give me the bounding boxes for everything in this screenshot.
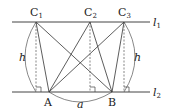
label-c2: C2 [84,6,97,20]
height-arc-left [25,22,36,92]
label-a-point: A [43,96,53,109]
segment-c2-a [49,22,90,92]
label-base-a: a [77,98,84,111]
label-b-point: B [108,96,116,109]
label-c1: C1 [30,6,43,20]
label-l1: l1 [153,16,161,30]
label-h-left: h [19,51,26,64]
geometry-diagram: C1 C2 C3 l1 l2 h h A B a [0,0,173,112]
altitudes [36,22,124,92]
label-h-right: h [134,51,141,64]
segment-c3-a [49,22,124,92]
triangle-sides [36,22,124,92]
label-c3: C3 [118,6,131,20]
label-l2: l2 [153,86,161,100]
right-angle-icon [36,87,41,92]
right-angle-icon [90,87,95,92]
segment-c3-b [112,22,124,92]
